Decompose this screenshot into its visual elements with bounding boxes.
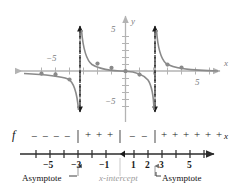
- sign-mark: +: [183, 129, 189, 140]
- sign-mark: +: [216, 129, 222, 140]
- graph-xtick-label-5: 5: [195, 77, 200, 87]
- number-line-tick-label-1: 1: [131, 160, 136, 170]
- graph-ytick-label-5: 5: [111, 24, 116, 34]
- number-line-tick-label-3: 3: [159, 160, 164, 170]
- sign-mark: −: [53, 131, 59, 142]
- sign-mark: −: [64, 131, 70, 142]
- number-line-axis: [20, 150, 214, 158]
- figure-container: −5 5 5 −5 x y: [0, 0, 242, 191]
- sign-chart-function-label: f: [12, 128, 15, 143]
- sign-mark: +: [96, 129, 102, 140]
- number-line-tick-label-neg3: −3: [71, 160, 81, 170]
- graph-panel: [0, 0, 242, 130]
- number-line-tick-label-2: 2: [145, 160, 150, 170]
- sign-mark: +: [85, 129, 91, 140]
- callout-x-intercept: x-intercept: [99, 173, 138, 183]
- graph-xtick-label-neg5: −5: [46, 53, 57, 63]
- sign-mark: +: [172, 129, 178, 140]
- callout-asymptote-left: Asymptote: [22, 173, 62, 183]
- number-line-tick-label-5: 5: [187, 160, 192, 170]
- sign-mark: +: [205, 129, 211, 140]
- graph-ytick-label-neg5: −5: [105, 96, 116, 106]
- sign-chart-axis-label: x: [224, 131, 228, 141]
- sign-mark: +: [194, 129, 200, 140]
- number-line-tick-label-neg1: −1: [99, 160, 109, 170]
- graph-y-axis: [122, 16, 129, 122]
- sign-mark: −: [31, 131, 37, 142]
- sign-mark: −: [129, 131, 135, 142]
- graph-x-axis-label: x: [224, 58, 228, 68]
- sign-mark: −: [141, 131, 147, 142]
- function-curve: [24, 30, 218, 110]
- x-intercept-marker: [120, 151, 125, 158]
- sign-mark: −: [42, 131, 48, 142]
- graph-y-axis-label: y: [131, 16, 135, 26]
- sign-mark: +: [161, 129, 167, 140]
- sign-mark: +: [107, 129, 113, 140]
- number-line-tick-label-neg5: −5: [43, 160, 53, 170]
- callout-asymptote-right: Asymptote: [162, 173, 202, 183]
